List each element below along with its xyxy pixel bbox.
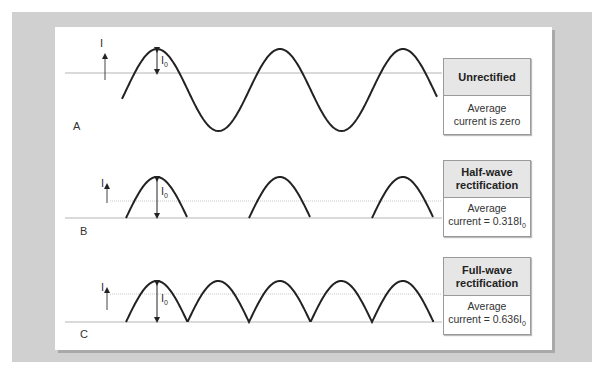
label-box-unrectified: Unrectified Average current is zero [443,58,531,135]
box-title: Full-waverectification [444,258,530,296]
panel-letter-b: B [80,225,87,237]
label-box-half-wave: Half-waverectification Average current =… [443,160,531,237]
full-wave-curve [126,281,434,322]
peak-label-b: I0 [161,185,168,199]
box-description: Average current = 0.636I0 [444,296,530,334]
sine-wave-curve [122,49,437,131]
label-box-full-wave: Full-waverectification Average current =… [443,257,531,335]
axis-label-b: I [101,177,104,189]
panel-letter-a: A [73,120,80,132]
axis-label-a: I [100,37,103,49]
box-description: Average current is zero [444,96,530,134]
axis-label-c: I [101,281,104,293]
peak-label-a: I0 [161,54,168,68]
box-title: Unrectified [444,59,530,96]
box-title: Half-waverectification [444,161,530,198]
box-description: Average current = 0.318I0 [444,198,530,236]
panel-letter-c: C [80,328,88,340]
half-wave-curve [126,177,433,218]
peak-label-c: I0 [161,292,168,306]
